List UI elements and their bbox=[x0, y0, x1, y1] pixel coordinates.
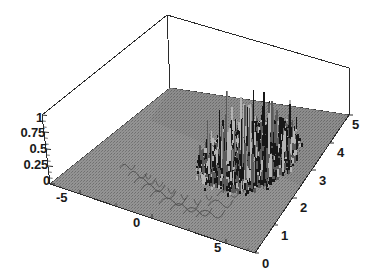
z-tick-label-0: 0 bbox=[2, 174, 50, 187]
y-tick-label-1: 1 bbox=[281, 229, 288, 242]
z-tick-label-0-5: 0.5 bbox=[2, 142, 47, 155]
y-tick-label-0: 0 bbox=[262, 257, 269, 270]
y-tick-label-5: 5 bbox=[352, 118, 359, 131]
x-tick-label-minus5: -5 bbox=[56, 191, 67, 204]
z-tick-label-0-75: 0.75 bbox=[2, 126, 45, 139]
plot3d-canvas bbox=[0, 0, 365, 279]
x-tick-label-5: 5 bbox=[214, 241, 221, 254]
z-tick-label-1: 1 bbox=[2, 111, 43, 124]
x-tick-label-0: 0 bbox=[133, 216, 140, 229]
y-tick-label-3: 3 bbox=[319, 174, 326, 187]
z-tick-label-0-25: 0.25 bbox=[2, 158, 48, 171]
plot3d-figure: 1 0.75 0.5 0.25 0 -5 0 5 0 1 2 3 4 5 bbox=[0, 0, 365, 279]
y-tick-label-4: 4 bbox=[337, 146, 344, 159]
y-tick-label-2: 2 bbox=[300, 201, 307, 214]
